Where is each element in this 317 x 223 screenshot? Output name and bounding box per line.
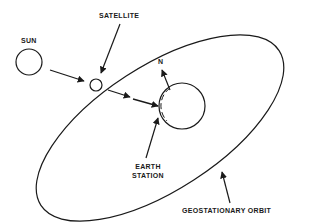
sun-icon <box>16 49 42 75</box>
orbit-label: GEOSTATIONARY ORBIT <box>182 206 271 215</box>
satellite-pointer-arrow <box>101 24 120 73</box>
earth-station-pointer-arrow <box>146 118 158 158</box>
satellite-icon <box>90 79 102 91</box>
geostationary-orbit-diagram <box>0 0 317 223</box>
satellite-to-earth-arrow-2 <box>133 99 158 106</box>
satellite-label: SATELLITE <box>99 11 139 20</box>
north-label: N <box>158 57 163 66</box>
north-arrow <box>162 70 170 90</box>
earth-station-label-line2: STATION <box>128 171 168 180</box>
earth-station-label-line1: EARTH <box>128 162 168 171</box>
earth-icon <box>159 83 205 129</box>
sun-label: SUN <box>21 36 37 45</box>
earth-station-label: EARTH STATION <box>128 162 168 180</box>
satellite-to-earth-arrow-1 <box>108 90 130 97</box>
orbit-pointer-arrow <box>222 172 230 203</box>
sun-to-satellite-arrow <box>50 70 84 81</box>
